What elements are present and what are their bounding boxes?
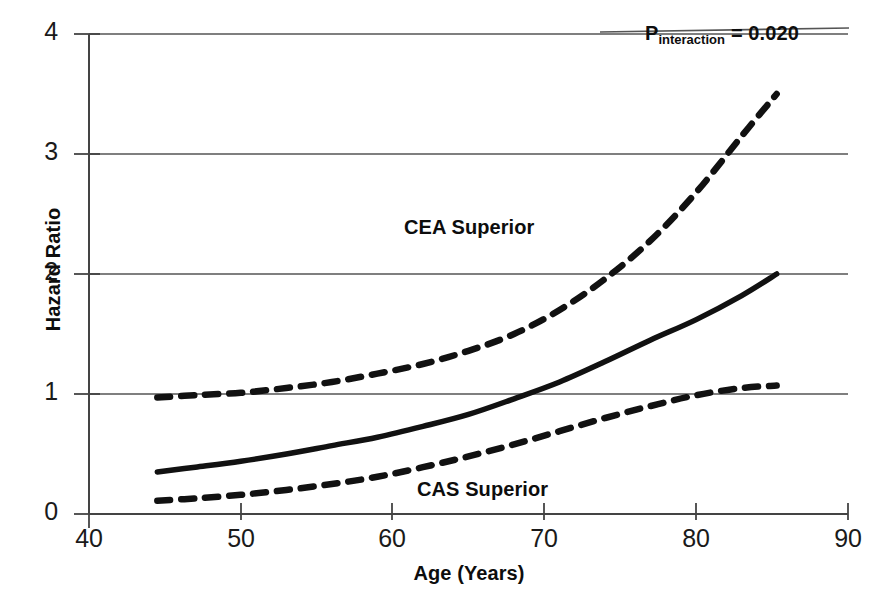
cea-superior-label: CEA Superior: [404, 216, 534, 239]
p-interaction-annotation: Pinteraction= 0.020: [645, 22, 799, 45]
chart-plot-area: [0, 0, 882, 603]
ytick-label-3: 3: [18, 137, 58, 166]
hazard-ratio-chart-figure: 4 3 2 1 0 40 50 60 70 80 90 Hazard Ratio…: [0, 0, 882, 603]
xtick-label-60: 60: [362, 524, 422, 553]
ytick-label-0: 0: [18, 497, 58, 526]
ytick-label-4: 4: [18, 17, 58, 46]
ytick-label-1: 1: [18, 377, 58, 406]
hazard-ratio-solid-curve: [157, 274, 776, 472]
p-subscript: interaction: [658, 32, 724, 47]
data-curves-group: [157, 94, 776, 501]
xtick-label-50: 50: [211, 524, 271, 553]
xtick-label-90: 90: [818, 524, 878, 553]
xtick-label-70: 70: [514, 524, 574, 553]
p-symbol: P: [645, 22, 658, 44]
ci-upper-dashed-curve: [157, 94, 776, 398]
y-axis-title: Hazard Ratio: [42, 170, 65, 370]
p-value-text: = 0.020: [731, 22, 799, 44]
xtick-label-40: 40: [59, 524, 119, 553]
cas-superior-label: CAS Superior: [417, 478, 548, 501]
gridlines-group: [89, 34, 848, 394]
x-axis-title: Age (Years): [369, 562, 569, 585]
xtick-label-80: 80: [666, 524, 726, 553]
axis-lines-group: [74, 34, 848, 528]
